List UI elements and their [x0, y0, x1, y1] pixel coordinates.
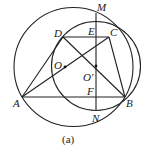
- label-c: C: [110, 26, 118, 38]
- label-n: N: [91, 112, 100, 124]
- label-d: D: [53, 27, 62, 39]
- label-f: F: [86, 85, 94, 97]
- label-b: B: [126, 97, 133, 109]
- point-o-dot: [64, 66, 67, 69]
- label-m: M: [96, 1, 107, 13]
- point-o-prime-dot: [95, 65, 98, 68]
- geometry-figure: M D E C O O′ F A B N (a): [0, 0, 148, 148]
- label-a: A: [12, 97, 20, 109]
- segment-cb: [109, 37, 125, 97]
- figure-caption: (a): [62, 133, 75, 146]
- label-o: O: [54, 59, 62, 71]
- figure-canvas: M D E C O O′ F A B N (a): [0, 0, 148, 148]
- label-e: E: [87, 25, 95, 37]
- segment-db: [63, 37, 125, 97]
- label-o-prime: O′: [83, 71, 94, 83]
